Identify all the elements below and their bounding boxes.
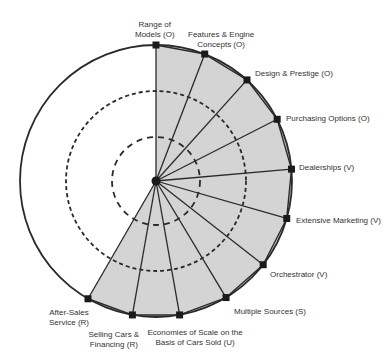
label-line: Extensive Marketing (V): [296, 216, 381, 226]
label-orchestrator: Orchestrator (V): [270, 270, 327, 280]
label-design-prestige: Design & Prestige (O): [255, 69, 333, 79]
square-marker-icon: [85, 295, 92, 302]
label-line: Dealerships (V): [299, 163, 354, 173]
shaded-wedge: [88, 45, 292, 317]
label-features-engine: Features & Engine Concepts (O): [188, 30, 254, 49]
label-line: Features & Engine: [188, 30, 254, 40]
label-line: After-Sales: [49, 308, 89, 318]
square-marker-icon: [176, 311, 183, 318]
label-line: Range of: [135, 20, 175, 30]
label-range-of-models: Range of Models (O): [135, 20, 175, 39]
label-extensive-marketing: Extensive Marketing (V): [296, 216, 381, 226]
label-line: Financing (R): [89, 340, 140, 350]
square-marker-icon: [129, 311, 136, 318]
label-line: Purchasing Options (O): [286, 114, 370, 124]
label-selling-cars-financing: Selling Cars & Financing (R): [89, 330, 140, 349]
label-line: Economies of Scale on the: [148, 328, 243, 338]
square-marker-icon: [201, 51, 208, 58]
label-multiple-sources: Multiple Sources (S): [234, 307, 306, 317]
label-line: Multiple Sources (S): [234, 307, 306, 317]
square-marker-icon: [223, 294, 230, 301]
center-hub: [152, 177, 161, 186]
label-line: Design & Prestige (O): [255, 69, 333, 79]
label-line: Models (O): [135, 30, 175, 40]
label-economies-of-scale: Economies of Scale on the Basis of Cars …: [148, 328, 243, 347]
label-line: Service (R): [49, 318, 89, 328]
label-after-sales-service: After-Sales Service (R): [49, 308, 89, 327]
square-marker-icon: [153, 42, 160, 49]
label-line: Basis of Cars Sold (U): [148, 338, 243, 348]
square-marker-icon: [283, 215, 290, 222]
label-line: Concepts (O): [188, 40, 254, 50]
square-marker-icon: [260, 261, 267, 268]
label-purchasing-options: Purchasing Options (O): [286, 114, 370, 124]
square-marker-icon: [244, 76, 251, 83]
shaded-sector: [88, 45, 292, 317]
square-marker-icon: [274, 116, 281, 123]
square-marker-icon: [288, 166, 295, 173]
label-line: Selling Cars &: [89, 330, 140, 340]
label-line: Orchestrator (V): [270, 270, 327, 280]
label-dealerships: Dealerships (V): [299, 163, 354, 173]
